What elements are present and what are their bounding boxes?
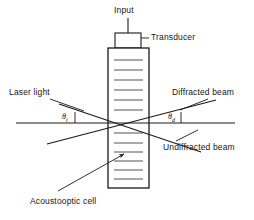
undiffracted-beam-leader-line xyxy=(176,130,198,141)
diagram-canvas: Input Transducer Laser light Diffracted … xyxy=(0,0,254,220)
input-label: Input xyxy=(114,6,134,15)
theta-incident-subscript: i xyxy=(66,117,68,123)
acoustooptic-cell-body xyxy=(108,48,149,188)
angle-incident-label: θi xyxy=(62,112,68,123)
undiffracted-beam-label: Undiffracted beam xyxy=(163,143,235,152)
diffracted-beam-label: Diffracted beam xyxy=(172,88,234,97)
acoustooptic-cell-label: Acoustooptic cell xyxy=(30,197,96,206)
transducer-label: Transducer xyxy=(151,33,195,42)
acoustooptic-diagram-svg xyxy=(0,0,254,220)
theta-diffracted-subscript: d xyxy=(172,117,175,123)
diffracted-beam-leader-line xyxy=(180,99,208,110)
laser-light-label: Laser light xyxy=(9,88,50,97)
laser-light-leader-line xyxy=(50,99,84,111)
angle-diffracted-label: θd xyxy=(168,112,175,123)
transducer-box xyxy=(115,33,141,48)
